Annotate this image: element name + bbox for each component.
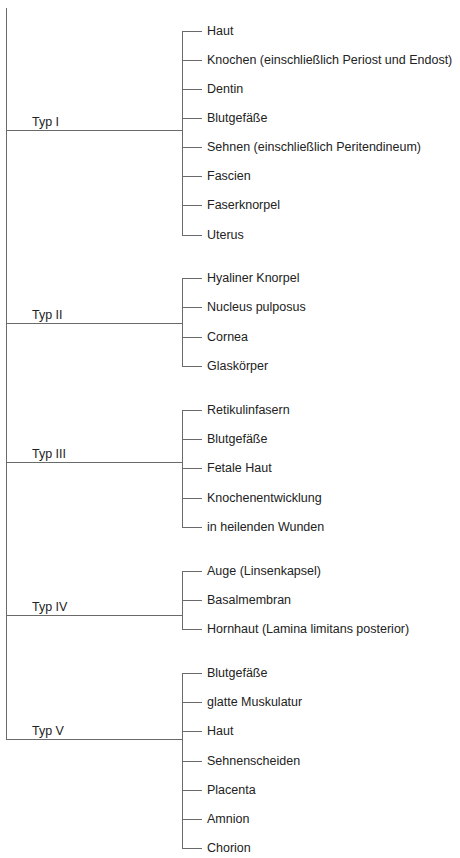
leaf-tick-line <box>182 468 202 469</box>
leaf-tick-line <box>182 629 202 630</box>
leaf-tick-line <box>182 600 202 601</box>
tissue-item: Amnion <box>207 812 249 826</box>
tissue-item: Chorion <box>207 841 251 855</box>
leaf-tick-line <box>182 731 202 732</box>
tissue-item: in heilenden Wunden <box>207 520 324 534</box>
tissue-item: Fetale Haut <box>207 461 272 475</box>
leaf-tick-line <box>182 819 202 820</box>
tissue-item: Cornea <box>207 330 248 344</box>
leaf-tick-line <box>182 176 202 177</box>
type-branch-line <box>6 130 183 131</box>
tissue-item: Haut <box>207 24 233 38</box>
tissue-item: Dentin <box>207 82 243 96</box>
tissue-item: Sehnenscheiden <box>207 754 300 768</box>
tissue-item: Uterus <box>207 228 244 242</box>
leaf-tick-line <box>182 147 202 148</box>
group-spine-line <box>182 410 183 528</box>
leaf-tick-line <box>182 571 202 572</box>
leaf-tick-line <box>182 31 202 32</box>
tissue-item: Fascien <box>207 169 251 183</box>
leaf-tick-line <box>182 673 202 674</box>
tissue-item: Hornhaut (Lamina limitans posterior) <box>207 622 409 636</box>
main-trunk-line <box>6 8 7 740</box>
leaf-tick-line <box>182 235 202 236</box>
leaf-tick-line <box>182 278 202 279</box>
leaf-tick-line <box>182 60 202 61</box>
leaf-tick-line <box>182 366 202 367</box>
tissue-item: Knochen (einschließlich Periost und Endo… <box>207 53 452 67</box>
tissue-item: glatte Muskulatur <box>207 695 302 709</box>
type-branch-line <box>6 462 183 463</box>
group-spine-line <box>182 278 183 367</box>
type-branch-line <box>6 323 183 324</box>
tissue-item: Glaskörper <box>207 359 268 373</box>
tissue-item: Retikulinfasern <box>207 403 290 417</box>
tissue-item: Haut <box>207 724 233 738</box>
leaf-tick-line <box>182 790 202 791</box>
leaf-tick-line <box>182 527 202 528</box>
type-label: Typ III <box>32 447 66 461</box>
type-label: Typ I <box>32 115 59 129</box>
type-branch-line <box>6 739 183 740</box>
tissue-item: Placenta <box>207 783 256 797</box>
leaf-tick-line <box>182 848 202 849</box>
tissue-item: Nucleus pulposus <box>207 300 306 314</box>
leaf-tick-line <box>182 410 202 411</box>
leaf-tick-line <box>182 89 202 90</box>
tissue-item: Knochenentwicklung <box>207 491 322 505</box>
type-label: Typ V <box>32 724 64 738</box>
leaf-tick-line <box>182 307 202 308</box>
tissue-item: Blutgefäße <box>207 111 267 125</box>
tissue-item: Hyaliner Knorpel <box>207 271 299 285</box>
tissue-item: Faserknorpel <box>207 198 280 212</box>
type-branch-line <box>6 615 183 616</box>
leaf-tick-line <box>182 337 202 338</box>
type-label: Typ II <box>32 308 63 322</box>
leaf-tick-line <box>182 205 202 206</box>
tissue-item: Basalmembran <box>207 593 291 607</box>
leaf-tick-line <box>182 439 202 440</box>
tissue-item: Blutgefäße <box>207 666 267 680</box>
leaf-tick-line <box>182 702 202 703</box>
tissue-item: Blutgefäße <box>207 432 267 446</box>
leaf-tick-line <box>182 118 202 119</box>
leaf-tick-line <box>182 761 202 762</box>
leaf-tick-line <box>182 498 202 499</box>
tissue-item: Auge (Linsenkapsel) <box>207 564 321 578</box>
type-label: Typ IV <box>32 600 67 614</box>
tissue-item: Sehnen (einschließlich Peritendineum) <box>207 140 421 154</box>
